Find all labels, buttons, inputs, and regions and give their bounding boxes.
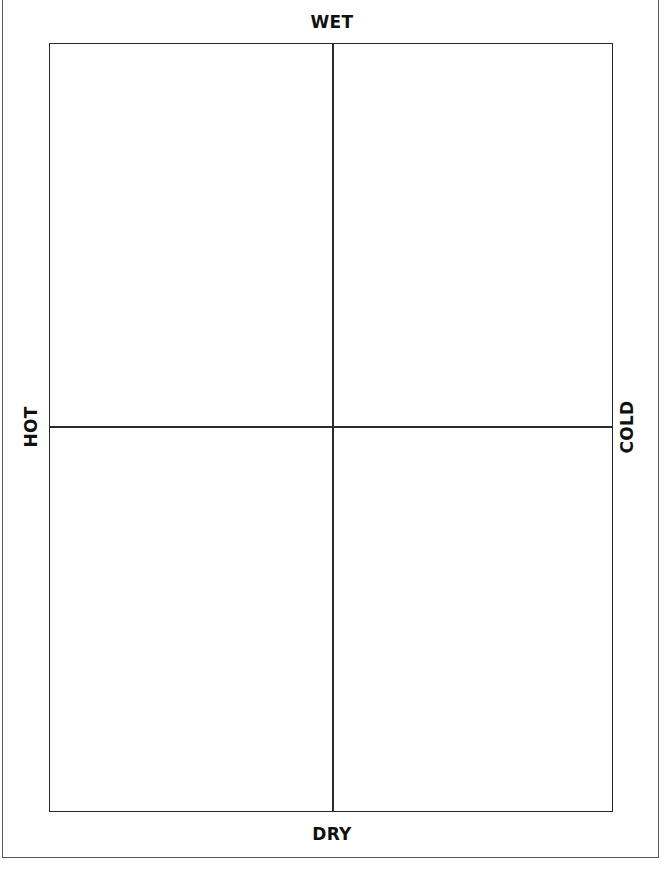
axis-label-wet: WET [0, 12, 664, 32]
quadrant-cold-dry [334, 428, 612, 811]
axis-label-hot: HOT [21, 406, 41, 447]
quadrant-hot-dry [50, 428, 332, 811]
quadrant-hot-wet [50, 44, 332, 426]
axis-label-dry: DRY [0, 824, 664, 844]
quadrant-cold-wet [334, 44, 612, 426]
axis-label-cold: COLD [617, 400, 637, 453]
